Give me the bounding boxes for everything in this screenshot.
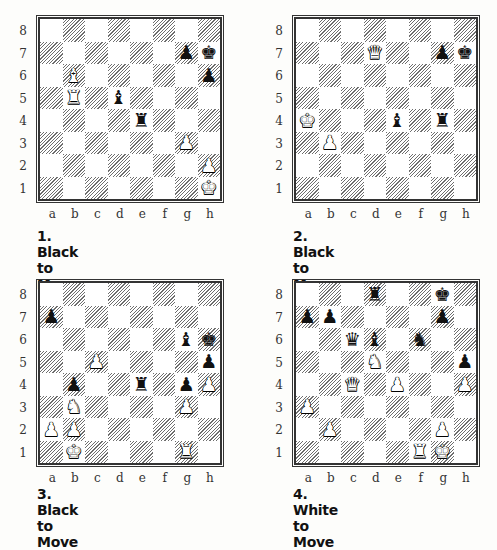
square-g4[interactable]: ♟ [175,373,198,396]
black-rook-icon[interactable]: ♜ [133,111,150,130]
square-f4[interactable] [409,373,432,396]
square-e2[interactable] [386,154,409,177]
square-b6[interactable] [319,64,342,87]
square-e8[interactable] [386,19,409,42]
square-b2[interactable] [63,154,86,177]
square-e5[interactable] [386,87,409,110]
square-h7[interactable]: ♚ [454,42,477,65]
square-h8[interactable] [198,19,221,42]
square-e7[interactable] [386,42,409,65]
square-d4[interactable] [364,109,387,132]
square-d8[interactable]: ♜ [364,283,387,306]
square-e1[interactable] [386,441,409,464]
square-f6[interactable] [153,328,176,351]
square-e5[interactable] [386,351,409,374]
square-d5[interactable] [364,87,387,110]
square-h4[interactable]: ♟ [454,373,477,396]
square-h7[interactable]: ♚ [198,42,221,65]
white-queen-icon[interactable]: ♛ [366,43,383,62]
square-a5[interactable] [40,351,63,374]
square-g6[interactable]: ♝ [175,328,198,351]
square-f8[interactable] [409,19,432,42]
square-h8[interactable] [454,19,477,42]
square-f6[interactable] [153,64,176,87]
square-c6[interactable] [341,64,364,87]
square-e2[interactable] [130,154,153,177]
square-a7[interactable] [40,42,63,65]
white-rook-icon[interactable]: ♜ [411,442,428,461]
square-c1[interactable] [85,177,108,200]
square-h1[interactable] [454,177,477,200]
square-h7[interactable] [198,306,221,329]
black-rook-icon[interactable]: ♜ [366,285,383,304]
black-pawn-icon[interactable]: ♟ [178,43,195,62]
square-d6[interactable] [108,64,131,87]
white-rook-icon[interactable]: ♜ [178,442,195,461]
square-b7[interactable] [63,306,86,329]
square-f8[interactable] [153,283,176,306]
white-pawn-icon[interactable]: ♟ [321,420,338,439]
square-f2[interactable] [153,418,176,441]
square-b7[interactable] [319,42,342,65]
square-a6[interactable] [296,328,319,351]
square-d6[interactable] [108,328,131,351]
square-d2[interactable] [364,418,387,441]
black-pawn-icon[interactable]: ♟ [65,375,82,394]
square-f1[interactable] [153,441,176,464]
square-b5[interactable]: ♜ [63,87,86,110]
square-c4[interactable] [85,373,108,396]
square-b8[interactable] [63,283,86,306]
square-c3[interactable] [85,132,108,155]
square-f5[interactable] [153,87,176,110]
square-c5[interactable]: ♟ [85,351,108,374]
square-e3[interactable] [386,132,409,155]
square-e3[interactable] [386,396,409,419]
square-a1[interactable] [296,441,319,464]
square-c6[interactable] [85,328,108,351]
square-d1[interactable] [364,441,387,464]
square-h6[interactable]: ♟ [198,64,221,87]
square-e4[interactable]: ♝ [386,109,409,132]
square-d4[interactable] [364,373,387,396]
square-d6[interactable]: ♝ [364,328,387,351]
square-a3[interactable] [40,132,63,155]
square-b1[interactable] [319,441,342,464]
square-g3[interactable] [431,132,454,155]
square-h2[interactable] [454,418,477,441]
square-e2[interactable] [130,418,153,441]
square-f7[interactable] [153,42,176,65]
square-g2[interactable] [431,154,454,177]
square-g2[interactable] [175,154,198,177]
black-bishop-icon[interactable]: ♝ [389,111,406,130]
square-c5[interactable] [341,351,364,374]
square-d7[interactable] [108,42,131,65]
black-king-icon[interactable]: ♚ [200,43,217,62]
white-knight-icon[interactable]: ♞ [65,397,82,416]
square-f7[interactable] [409,42,432,65]
square-b5[interactable] [63,351,86,374]
square-h4[interactable] [454,109,477,132]
square-e6[interactable] [386,328,409,351]
square-g1[interactable] [431,177,454,200]
square-h3[interactable] [198,396,221,419]
square-f2[interactable] [153,154,176,177]
square-b6[interactable] [63,328,86,351]
square-d5[interactable]: ♞ [364,351,387,374]
square-d1[interactable] [108,177,131,200]
square-c5[interactable] [341,87,364,110]
square-e6[interactable] [386,64,409,87]
square-e6[interactable] [130,64,153,87]
black-rook-icon[interactable]: ♜ [434,111,451,130]
square-c1[interactable] [85,441,108,464]
square-b3[interactable]: ♞ [63,396,86,419]
square-g5[interactable] [431,87,454,110]
square-c8[interactable] [341,19,364,42]
square-h5[interactable] [198,87,221,110]
square-a4[interactable] [40,109,63,132]
white-pawn-icon[interactable]: ♟ [88,352,105,371]
square-c7[interactable] [85,306,108,329]
square-e8[interactable] [130,283,153,306]
white-pawn-icon[interactable]: ♟ [389,375,406,394]
square-g1[interactable] [175,177,198,200]
square-f5[interactable] [153,351,176,374]
